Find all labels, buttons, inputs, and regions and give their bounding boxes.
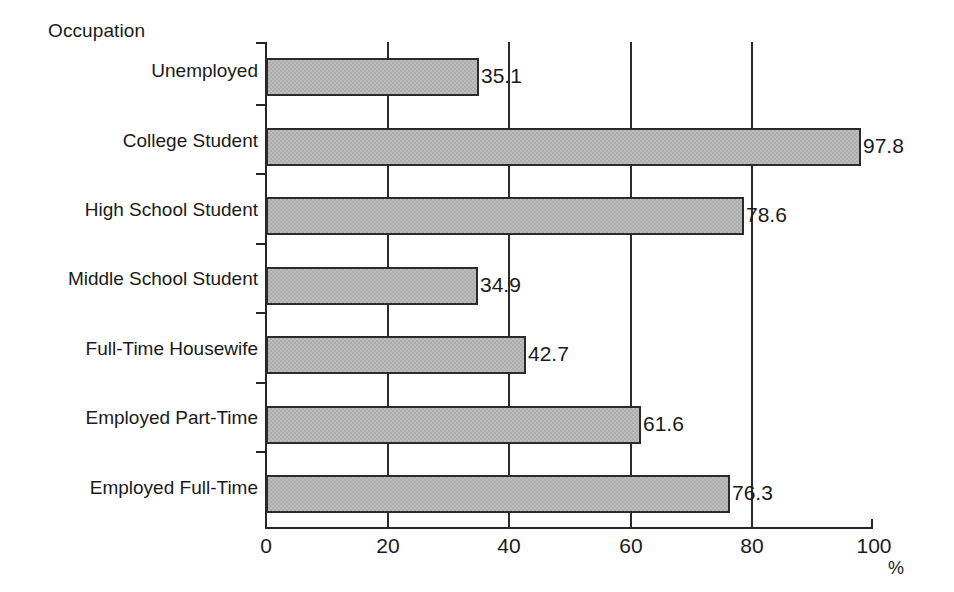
value-label-employed-part-time: 61.6: [643, 412, 684, 436]
value-label-unemployed: 35.1: [481, 64, 522, 88]
bar-high-school-student[interactable]: [266, 197, 744, 235]
category-label-college-student: College Student: [0, 130, 258, 152]
category-label-unemployed: Unemployed: [0, 60, 258, 82]
bar-employed-full-time[interactable]: [266, 475, 730, 513]
x-axis-cap-0: [265, 519, 267, 528]
y-axis-top-cap: [256, 42, 265, 44]
category-axis-title: Occupation: [48, 20, 145, 42]
xtick-label-100: 100: [856, 534, 891, 558]
x-axis-unit-label: %: [888, 558, 904, 579]
gridline-80: [751, 42, 753, 529]
value-label-middle-school-student: 34.9: [480, 273, 521, 297]
xtick-label-20: 20: [376, 534, 399, 558]
bar-employed-part-time[interactable]: [266, 406, 641, 444]
plot-area: 35.1 97.8 78.6 34.9 42.7 61.6 76.3: [265, 42, 873, 529]
y-tick-2: [256, 173, 265, 175]
value-label-college-student: 97.8: [863, 134, 904, 158]
bar-unemployed[interactable]: [266, 58, 479, 96]
xtick-label-80: 80: [740, 534, 763, 558]
bar-middle-school-student[interactable]: [266, 267, 478, 305]
xtick-label-0: 0: [260, 534, 272, 558]
category-label-employed-full-time: Employed Full-Time: [0, 477, 258, 499]
y-tick-6: [256, 451, 265, 453]
bar-college-student[interactable]: [266, 128, 861, 166]
y-tick-3: [256, 243, 265, 245]
y-tick-1: [256, 104, 265, 106]
value-label-employed-full-time: 76.3: [732, 481, 773, 505]
xtick-label-60: 60: [619, 534, 642, 558]
category-label-employed-part-time: Employed Part-Time: [0, 407, 258, 429]
value-label-high-school-student: 78.6: [746, 203, 787, 227]
y-tick-5: [256, 382, 265, 384]
category-label-full-time-housewife: Full-Time Housewife: [0, 338, 258, 360]
bar-chart: Occupation Unemployed College Student Hi…: [0, 0, 954, 592]
value-label-full-time-housewife: 42.7: [528, 342, 569, 366]
bar-full-time-housewife[interactable]: [266, 336, 526, 374]
gridline-60: [630, 42, 632, 529]
x-axis-cap-100: [871, 519, 873, 528]
xtick-label-40: 40: [497, 534, 520, 558]
category-label-high-school-student: High School Student: [0, 199, 258, 221]
y-tick-4: [256, 312, 265, 314]
category-label-middle-school-student: Middle School Student: [0, 268, 258, 290]
x-axis-line: [265, 527, 873, 529]
